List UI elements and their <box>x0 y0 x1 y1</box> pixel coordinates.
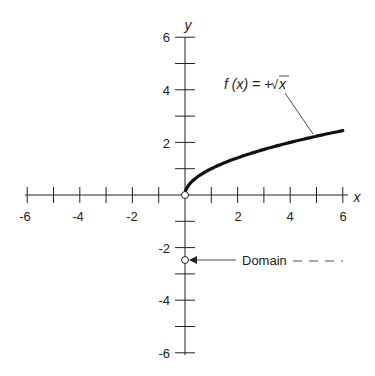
y-tick-label: -4 <box>158 293 170 308</box>
x-tick-label: -4 <box>72 209 84 224</box>
sqrt-symbol: √ <box>271 77 279 92</box>
origin-open-circle <box>182 192 189 199</box>
y-tick-label: -2 <box>158 241 170 256</box>
sqrt-curve <box>185 131 343 195</box>
arrow-head-icon <box>189 256 197 264</box>
y-axis-label: y <box>184 17 193 33</box>
x-tick-label: 6 <box>339 209 346 224</box>
y-tick-label: 2 <box>163 136 170 151</box>
x-tick-label: 4 <box>286 209 293 224</box>
x-tick-label: -2 <box>126 209 138 224</box>
domain-open-circle <box>182 257 189 264</box>
domain-label: Domain <box>242 253 287 268</box>
x-tick-label: 2 <box>234 209 241 224</box>
y-tick-label: 6 <box>163 30 170 45</box>
x-axis-label: x <box>353 189 362 205</box>
function-leader-line <box>285 93 313 134</box>
function-label: f (x) = + <box>224 76 272 92</box>
y-tick-label: 4 <box>163 83 170 98</box>
function-arg: x <box>278 76 287 92</box>
y-tick-label: -6 <box>158 346 170 361</box>
x-tick-label: -6 <box>19 209 31 224</box>
function-graph: -6 -4 -2 2 4 6 6 4 2 -2 -4 -6 y x f (x) … <box>0 0 375 376</box>
